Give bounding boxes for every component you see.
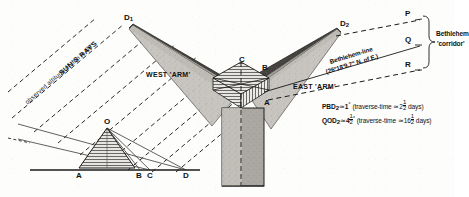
corridor-label-line2: 'corridor' (437, 41, 464, 48)
corridor-point-p: P (405, 10, 410, 18)
tip-point-d1: D1 (124, 14, 133, 22)
note-qod-fraction: 12 (411, 114, 414, 125)
corridor-point-q: Q (405, 36, 411, 44)
corridor-brace (423, 16, 435, 68)
baseline-point-d: D (183, 172, 189, 180)
note-pbd: PBD2≃1° (traverse-time ≃212 days) (322, 100, 424, 111)
note-pbd-paren-open: (traverse-time (352, 103, 391, 110)
note-qod-symbol: QOD (322, 117, 337, 124)
note-pbd-symbol: PBD (322, 103, 336, 110)
note-qod: QOD2≃412° (traverse-time ≃1612 days) (322, 114, 431, 125)
baseline-point-c: C (147, 172, 153, 180)
central-shaft-highlight (222, 108, 242, 186)
vertex-point-b: B (262, 64, 268, 72)
corridor-point-r: R (405, 61, 411, 69)
note-pbd-fraction: 12 (403, 100, 406, 111)
tip-point-d2: D2 (340, 20, 349, 28)
vertex-point-c: C (239, 56, 245, 64)
corridor-endpoint-ticks (415, 19, 422, 70)
baseline-point-b: B (136, 172, 142, 180)
corridor-label-line1: Bethlehem (436, 31, 469, 38)
east-arm-label: EAST 'ARM' (293, 83, 336, 90)
west-arm-label: WEST 'ARM' (146, 71, 190, 78)
apex-point-o: O (104, 118, 110, 126)
vertex-point-a: A (264, 99, 270, 107)
note-qod-paren-open: (traverse-time (357, 117, 396, 124)
baseline-point-a: A (76, 172, 82, 180)
